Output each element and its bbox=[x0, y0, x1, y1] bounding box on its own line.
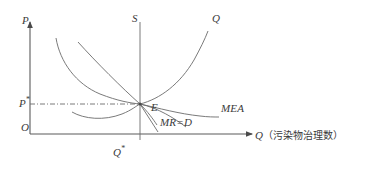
quantity-equilibrium-symbol: Q bbox=[113, 146, 121, 158]
x-axis-paren-close: ） bbox=[333, 130, 343, 141]
mr-equals-d-label: MR=D bbox=[160, 117, 192, 128]
price-equilibrium-prime: * bbox=[26, 95, 30, 104]
x-axis-label: Q（污染物治理数） bbox=[255, 130, 343, 141]
supply-curve-label: S bbox=[132, 13, 138, 24]
y-axis-label: P bbox=[22, 15, 29, 26]
price-equilibrium-symbol: P bbox=[19, 97, 26, 109]
equilibrium-point-label: E bbox=[151, 102, 158, 113]
x-axis-paren-open: （ bbox=[263, 130, 273, 141]
x-axis-cjk-text: 污染物治理数 bbox=[273, 130, 333, 141]
equilibrium-point-marker bbox=[138, 102, 141, 105]
price-equilibrium-label: P* bbox=[19, 96, 30, 109]
chart-canvas bbox=[0, 0, 365, 169]
quantity-curve-label: Q bbox=[212, 13, 220, 24]
quantity-equilibrium-prime: * bbox=[121, 144, 125, 153]
mea-curve-label: MEA bbox=[221, 103, 244, 114]
quantity-curve-q bbox=[140, 31, 208, 104]
x-axis-symbol: Q bbox=[255, 129, 263, 141]
origin-label: O bbox=[21, 122, 29, 133]
economics-diagram: P O S Q P* Q* E MEA MR=D Q（污染物治理数） bbox=[0, 0, 365, 169]
mea-curve bbox=[72, 104, 219, 118]
quantity-equilibrium-label: Q* bbox=[113, 145, 125, 158]
